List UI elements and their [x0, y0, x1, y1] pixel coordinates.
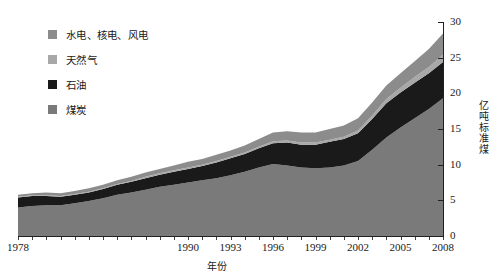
y-tick-mark [438, 58, 444, 59]
y-tick-mark [438, 165, 444, 166]
y-tick-mark [438, 200, 444, 201]
y-tick-label: 0 [450, 230, 456, 241]
energy-consumption-area-chart: 水电、核电、风电 天然气 石油 煤炭 051015202530 19781990… [0, 0, 502, 274]
x-tick-mark [146, 237, 147, 240]
x-tick-mark [330, 237, 331, 240]
x-tick-mark [429, 237, 430, 240]
x-tick-mark [216, 237, 217, 240]
x-tick-mark [75, 237, 76, 240]
y-tick-label: 15 [450, 123, 461, 134]
x-tick-mark [174, 237, 175, 240]
y-tick-label: 20 [450, 87, 461, 98]
x-tick-mark [443, 237, 444, 240]
x-tick-mark [316, 237, 317, 240]
x-tick-mark [18, 237, 19, 240]
x-tick-mark [415, 237, 416, 240]
x-tick-mark [245, 237, 246, 240]
x-tick-mark [358, 237, 359, 240]
x-tick-mark [344, 237, 345, 240]
y-tick-label: 5 [450, 194, 456, 205]
x-tick-label: 2008 [432, 242, 454, 253]
y-tick-label: 25 [450, 52, 461, 63]
x-tick-mark [287, 237, 288, 240]
y-tick-mark [438, 129, 444, 130]
x-tick-mark [372, 237, 373, 240]
x-tick-mark [301, 237, 302, 240]
y-tick-mark [438, 22, 444, 23]
x-tick-mark [131, 237, 132, 240]
x-tick-mark [231, 237, 232, 240]
x-axis-title: 年份 [207, 258, 227, 273]
x-tick-mark [117, 237, 118, 240]
x-tick-mark [103, 237, 104, 240]
x-tick-mark [61, 237, 62, 240]
x-tick-mark [89, 237, 90, 240]
y-tick-mark [438, 93, 444, 94]
x-tick-mark [401, 237, 402, 240]
x-tick-label: 1990 [177, 242, 199, 253]
x-tick-mark [386, 237, 387, 240]
x-tick-label: 2005 [390, 242, 412, 253]
x-tick-mark [46, 237, 47, 240]
x-tick-label: 1993 [220, 242, 242, 253]
x-tick-mark [259, 237, 260, 240]
x-tick-label: 1999 [305, 242, 327, 253]
x-tick-mark [188, 237, 189, 240]
plot-area [18, 22, 443, 236]
y-tick-label: 30 [450, 16, 461, 27]
y-axis-title: 亿吨标准煤 [473, 100, 487, 155]
x-tick-mark [202, 237, 203, 240]
x-tick-mark [32, 237, 33, 240]
stacked-area-svg [18, 22, 443, 236]
x-tick-label: 1978 [7, 242, 29, 253]
x-tick-mark [160, 237, 161, 240]
x-tick-label: 1996 [262, 242, 284, 253]
x-tick-mark [273, 237, 274, 240]
y-tick-label: 10 [450, 159, 461, 170]
x-tick-label: 2002 [347, 242, 369, 253]
